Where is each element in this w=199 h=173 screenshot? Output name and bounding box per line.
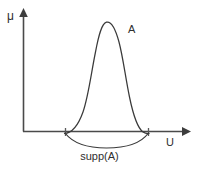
- membership-curve-A: [65, 22, 150, 133]
- y-axis-arrow-icon: [19, 8, 28, 17]
- fuzzy-set-label-A: A: [128, 24, 135, 35]
- support-label: supp(A): [0, 151, 199, 162]
- y-axis-label: μ: [7, 10, 14, 22]
- x-axis-arrow-icon: [182, 127, 191, 136]
- x-axis-label: U: [166, 137, 174, 148]
- support-bracket-arc: [65, 133, 149, 148]
- membership-function-figure: μ U A supp(A): [0, 0, 199, 173]
